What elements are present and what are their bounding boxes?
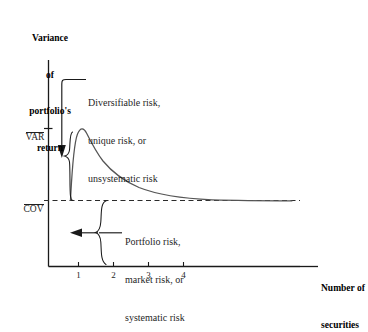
var-axis-label-text: VAR bbox=[26, 132, 45, 143]
diversifiable-risk-line-2: unique risk, or bbox=[88, 135, 160, 148]
x-tick-label-4: 4 bbox=[177, 270, 191, 280]
y-axis-title-line-1: Variance bbox=[12, 32, 88, 44]
x-axis-title-line-2: securities bbox=[321, 319, 367, 331]
portfolio-risk-line-3: systematic risk bbox=[125, 312, 185, 325]
y-axis-title-line-2: of bbox=[12, 69, 88, 81]
x-tick-label-3: 3 bbox=[142, 270, 156, 280]
diversifiable-risk-line-1: Diversifiable risk, bbox=[88, 97, 160, 110]
y-axis-title-line-3: portfolio's bbox=[12, 105, 88, 117]
x-tick-label-2: 2 bbox=[107, 270, 121, 280]
portfolio-risk-arrowhead-icon bbox=[70, 229, 82, 238]
diversifiable-risk-annotation: Diversifiable risk, unique risk, or unsy… bbox=[88, 72, 160, 211]
diversifiable-risk-line-3: unsystematic risk bbox=[88, 173, 160, 186]
x-axis-title: Number of securities bbox=[321, 258, 367, 332]
cov-axis-label-text: COV bbox=[24, 204, 44, 215]
x-axis-title-line-1: Number of bbox=[321, 282, 367, 294]
x-tick-label-1: 1 bbox=[72, 270, 86, 280]
cov-axis-label: COV bbox=[14, 193, 44, 225]
var-axis-label: VAR bbox=[16, 121, 44, 153]
portfolio-risk-line-1: Portfolio risk, bbox=[125, 236, 185, 249]
